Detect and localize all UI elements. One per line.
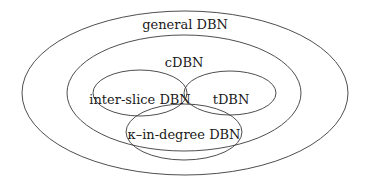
label-inter-slice-dbn: inter-slice DBN	[89, 93, 191, 106]
label-k-in-degree-dbn: κ–in-degree DBN	[128, 128, 241, 141]
label-cdbn: cDBN	[165, 56, 204, 69]
label-tdbn: tDBN	[213, 93, 250, 106]
dbn-class-diagram: general DBN cDBN inter-slice DBN tDBN κ–…	[0, 0, 365, 182]
label-general-dbn: general DBN	[142, 18, 228, 31]
